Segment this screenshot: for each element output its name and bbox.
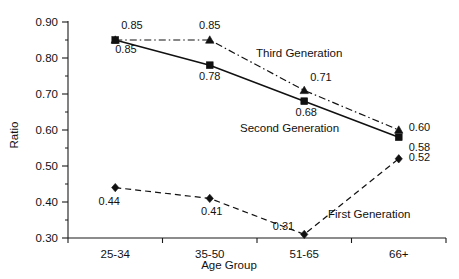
data-point-marker xyxy=(301,230,308,238)
data-point-label: 0.60 xyxy=(409,121,430,133)
data-point-label: 0.85 xyxy=(121,19,142,31)
data-point-marker xyxy=(112,183,119,191)
y-tick-label: 0.90 xyxy=(36,16,58,28)
x-tick-label: 25-34 xyxy=(101,248,131,260)
line-chart: 0.300.400.500.600.700.800.90 25-3435-505… xyxy=(0,0,459,279)
y-axis-title: Ratio xyxy=(8,122,20,149)
data-point-marker xyxy=(395,134,402,141)
y-tick-label: 0.80 xyxy=(36,52,58,64)
data-point-marker xyxy=(395,126,403,133)
data-point-label: 0.78 xyxy=(199,70,220,82)
data-point-label: 0.31 xyxy=(273,220,294,232)
data-point-label: 0.85 xyxy=(199,19,220,31)
series-annotation-first-generation: First Generation xyxy=(328,208,410,220)
data-point-marker xyxy=(301,98,308,105)
data-point-marker xyxy=(206,62,213,69)
data-point-marker xyxy=(395,155,402,163)
y-tick-label: 0.60 xyxy=(36,124,58,136)
y-tick-label: 0.30 xyxy=(36,232,58,244)
series-annotation-third-generation: Third Generation xyxy=(256,47,342,59)
y-tick-label: 0.50 xyxy=(36,160,58,172)
data-point-label: 0.44 xyxy=(99,195,120,207)
y-axis: 0.300.400.500.600.700.800.90 xyxy=(36,16,68,244)
data-point-marker xyxy=(300,86,308,93)
data-point-label: 0.85 xyxy=(115,43,136,55)
data-point-label: 0.71 xyxy=(310,71,331,83)
data-point-label: 0.52 xyxy=(409,151,430,163)
x-axis-title: Age Group xyxy=(201,259,257,271)
series-line-first-generation xyxy=(115,159,399,235)
data-point-label: 0.41 xyxy=(201,205,222,217)
series-annotation-second-generation: Second Generation xyxy=(240,122,339,134)
y-tick-label: 0.70 xyxy=(36,88,58,100)
x-axis: 25-3435-5051-6566+ xyxy=(68,238,446,260)
x-tick-label: 66+ xyxy=(389,248,409,260)
chart-canvas: 0.300.400.500.600.700.800.90 25-3435-505… xyxy=(0,0,459,279)
x-tick-label: 51-65 xyxy=(290,248,319,260)
y-tick-label: 0.40 xyxy=(36,196,58,208)
data-point-label: 0.68 xyxy=(296,106,317,118)
data-point-marker xyxy=(206,194,213,202)
